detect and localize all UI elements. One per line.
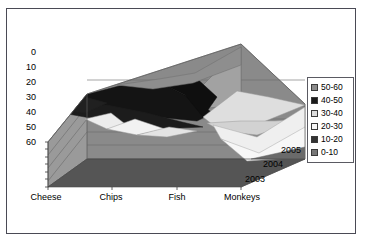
legend-item-50-60[interactable]: 50-60 [311, 81, 350, 94]
legend-label-20-30: 20-30 [321, 122, 343, 131]
depth-label-2004: 2004 [263, 159, 283, 169]
y-tick-label-20: 20 [16, 77, 36, 87]
legend-swatch-icon-10-20 [311, 136, 318, 143]
legend-item-30-40[interactable]: 30-40 [311, 107, 350, 120]
y-tick-label-40: 40 [16, 107, 36, 117]
legend-label-40-50: 40-50 [321, 96, 343, 105]
chart-frame: 60 50 40 30 20 10 0 Cheese Chips Fish Mo… [6, 8, 356, 234]
y-tick-label-50: 50 [16, 122, 36, 132]
legend-label-50-60: 50-60 [321, 83, 343, 92]
y-tick-label-0: 0 [16, 47, 36, 57]
category-ticks [48, 187, 241, 190]
y-tick-label-60: 60 [16, 137, 36, 147]
legend-swatch-icon-20-30 [311, 123, 318, 130]
legend-item-20-30[interactable]: 20-30 [311, 120, 350, 133]
category-label-cheese: Cheese [13, 192, 79, 202]
y-tick-label-30: 30 [16, 92, 36, 102]
depth-label-2005: 2005 [281, 145, 301, 155]
depth-label-2003: 2003 [245, 174, 265, 184]
legend-item-0-10[interactable]: 0-10 [311, 146, 350, 159]
legend-swatch-icon-40-50 [311, 97, 318, 104]
category-label-monkeys: Monkeys [209, 192, 275, 202]
legend-label-10-20: 10-20 [321, 135, 343, 144]
y-axis-ticks [45, 142, 48, 187]
legend-swatch-icon-30-40 [311, 110, 318, 117]
legend-swatch-icon-50-60 [311, 84, 318, 91]
legend-label-0-10: 0-10 [321, 148, 338, 157]
category-label-chips: Chips [80, 192, 142, 202]
y-tick-label-10: 10 [16, 62, 36, 72]
category-label-fish: Fish [146, 192, 208, 202]
chart-legend: 50-60 40-50 30-40 20-30 10-20 0-10 [307, 77, 354, 163]
legend-item-40-50[interactable]: 40-50 [311, 94, 350, 107]
legend-item-10-20[interactable]: 10-20 [311, 133, 350, 146]
legend-label-30-40: 30-40 [321, 109, 343, 118]
legend-swatch-icon-0-10 [311, 149, 318, 156]
